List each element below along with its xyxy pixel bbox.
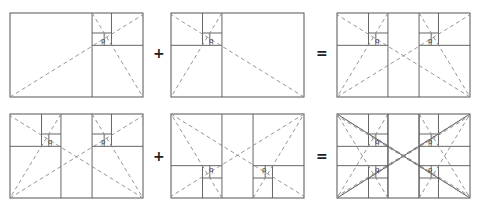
equals-sign: =	[316, 149, 328, 163]
dashed-diagonal	[337, 13, 388, 97]
spiral-label: q	[375, 37, 379, 45]
spiral-label: q	[375, 138, 379, 146]
dashed-diagonal	[253, 114, 304, 198]
spiral-label: p	[428, 138, 433, 146]
dashed-diagonal	[10, 15, 143, 97]
dashed-diagonal	[92, 13, 143, 97]
subdivision-variant: p	[10, 13, 143, 97]
plus-sign: +	[153, 46, 165, 60]
golden-rectangle-diagram: pqpqpqpqpqpq	[0, 0, 483, 210]
spiral-label: p	[428, 166, 433, 174]
spiral-label: q	[48, 138, 52, 146]
spiral-label: q	[375, 166, 379, 174]
dashed-diagonal	[171, 13, 222, 97]
spiral-label: q	[209, 166, 213, 174]
spiral-label: p	[101, 138, 106, 146]
dashed-diagonal	[171, 114, 222, 198]
spiral-label: p	[262, 166, 267, 174]
plus-sign: +	[153, 149, 165, 163]
dashed-diagonal	[419, 13, 470, 97]
dashed-diagonal	[92, 114, 143, 198]
spiral-label: q	[209, 37, 213, 45]
dashed-diagonal	[10, 114, 61, 198]
equals-sign: =	[316, 46, 328, 60]
subdivision-variant: q	[171, 13, 304, 97]
dashed-diagonal	[171, 15, 304, 97]
spiral-label: p	[101, 37, 106, 45]
spiral-label: p	[428, 37, 433, 45]
